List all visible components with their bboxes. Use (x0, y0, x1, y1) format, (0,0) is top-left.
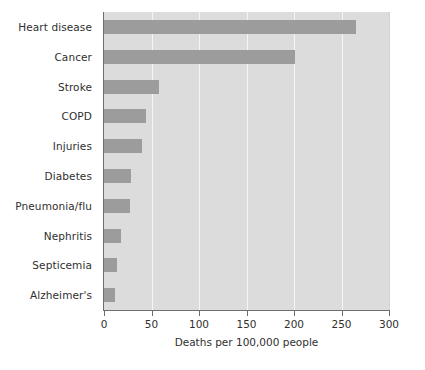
x-tick-mark (294, 311, 295, 316)
y-tick-label: Septicemia (32, 258, 92, 272)
y-tick-label: Stroke (58, 80, 92, 94)
x-tick-label: 250 (331, 318, 351, 330)
x-tick-mark (342, 311, 343, 316)
bar (104, 50, 295, 64)
bar (104, 80, 159, 94)
x-axis-title: Deaths per 100,000 people (104, 336, 389, 348)
y-axis-line (103, 12, 104, 311)
bar (104, 199, 130, 213)
x-tick-label: 300 (379, 318, 399, 330)
x-tick-label: 200 (284, 318, 304, 330)
y-tick-label: Heart disease (18, 20, 92, 34)
y-tick-label: Diabetes (45, 169, 92, 183)
y-axis-label-group: Heart diseaseCancerStrokeCOPDInjuriesDia… (0, 12, 98, 310)
y-tick-label: COPD (62, 109, 92, 123)
bar (104, 139, 142, 153)
x-tick-mark (389, 311, 390, 316)
y-tick-label: Pneumonia/flu (15, 199, 92, 213)
x-tick-label: 150 (236, 318, 256, 330)
bar (104, 109, 146, 123)
x-tick-label: 100 (189, 318, 209, 330)
y-tick-label: Alzheimer's (30, 288, 92, 302)
x-tick-mark (247, 311, 248, 316)
bar (104, 20, 356, 34)
x-tick-mark (152, 311, 153, 316)
y-tick-label: Nephritis (44, 229, 92, 243)
bar (104, 229, 121, 243)
y-tick-label: Injuries (53, 139, 92, 153)
x-tick-label: 0 (101, 318, 108, 330)
y-tick-label: Cancer (54, 50, 92, 64)
bar (104, 258, 117, 272)
gridline (342, 12, 343, 310)
x-tick-mark (199, 311, 200, 316)
bar (104, 288, 115, 302)
x-tick-mark (104, 311, 105, 316)
x-tick-label: 50 (145, 318, 158, 330)
bar-chart-figure: Heart diseaseCancerStrokeCOPDInjuriesDia… (0, 0, 425, 370)
bar (104, 169, 131, 183)
plot-area (104, 12, 389, 310)
plot-frame-right-edge (389, 12, 390, 310)
